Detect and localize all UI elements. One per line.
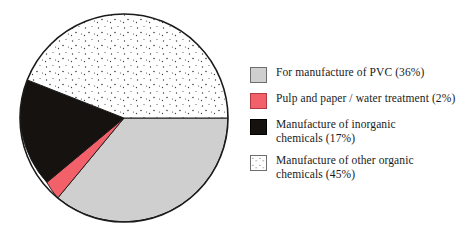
- legend-item-pulp-paper: Pulp and paper / water treatment (2%): [250, 92, 465, 109]
- gray-swatch-icon: [250, 67, 267, 83]
- stipple-swatch-fill: [251, 156, 266, 170]
- legend-item-label: Pulp and paper / water treatment (2%): [276, 92, 455, 106]
- legend-item-inorganic: Manufacture of inorganic chemicals (17%): [250, 118, 465, 145]
- pie-chart-plot-area: [18, 12, 230, 224]
- pie-chart-figure: For manufacture of PVC (36%) Pulp and pa…: [0, 0, 470, 230]
- legend-item-pvc: For manufacture of PVC (36%): [250, 66, 465, 83]
- legend-item-label: Manufacture of other organic chemicals (…: [276, 154, 414, 181]
- legend-item-other-organic: Manufacture of other organic chemicals (…: [250, 154, 465, 181]
- stipple-swatch-icon: [250, 155, 267, 171]
- black-swatch-icon: [250, 119, 267, 135]
- chart-legend: For manufacture of PVC (36%) Pulp and pa…: [250, 66, 465, 181]
- legend-item-label: Manufacture of inorganic chemicals (17%): [276, 118, 396, 145]
- red-swatch-icon: [250, 93, 267, 109]
- legend-item-label: For manufacture of PVC (36%): [276, 66, 424, 80]
- pie-chart-svg: [18, 12, 230, 224]
